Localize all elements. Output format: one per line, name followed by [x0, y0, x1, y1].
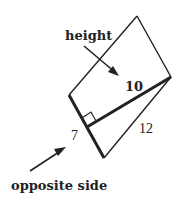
parallelogram-diagram: height 10 7 12 opposite side — [0, 0, 186, 200]
diagram-canvas: height 10 7 12 opposite side — [0, 0, 186, 200]
opposite-side-label: opposite side — [11, 178, 107, 193]
height-label: height — [65, 28, 112, 43]
height-value-label: 10 — [125, 79, 143, 94]
opposite-side-edge — [69, 95, 104, 158]
slant-side-value-label: 12 — [139, 121, 153, 136]
edge-top-right — [137, 16, 171, 77]
opposite-value-label: 7 — [71, 128, 78, 143]
